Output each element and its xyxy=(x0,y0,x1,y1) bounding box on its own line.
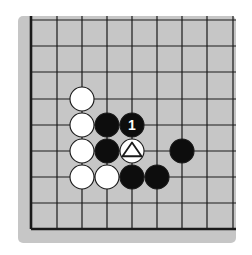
white-stone xyxy=(70,113,94,137)
go-board: 1 xyxy=(0,0,252,255)
move-number-label: 1 xyxy=(128,117,136,133)
black-stone xyxy=(170,139,194,163)
black-stone xyxy=(145,165,169,189)
white-stone xyxy=(70,139,94,163)
black-stone: 1 xyxy=(120,113,144,137)
black-stone xyxy=(95,139,119,163)
go-diagram: 1 xyxy=(0,0,252,255)
white-stone xyxy=(70,87,94,111)
black-stone xyxy=(95,113,119,137)
white-stone xyxy=(120,139,144,163)
black-stone xyxy=(120,165,144,189)
white-stone xyxy=(95,165,119,189)
white-stone xyxy=(70,165,94,189)
